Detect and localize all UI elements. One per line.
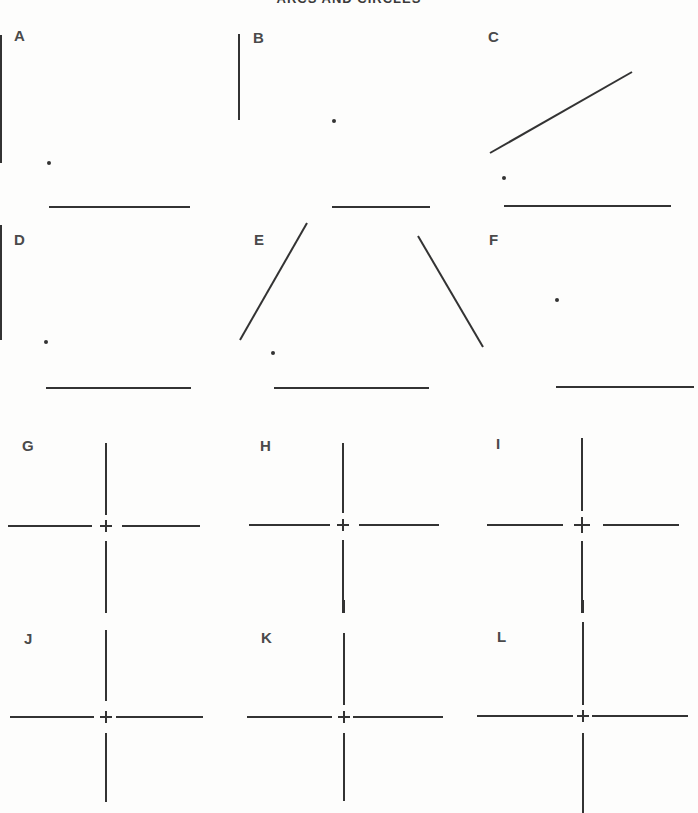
center-point [271,351,275,355]
panel-b-arc-construction [239,34,430,207]
guide-line [490,72,632,153]
panel-h-circle-centerlines [249,443,439,613]
worksheet: ARCS AND CIRCLES A B C D E F G H I J K L [0,0,698,813]
center-point [47,161,51,165]
panel-l-circle-centerlines [477,600,688,813]
panel-e-arc-construction [240,223,429,388]
panel-f-arc-construction [418,236,694,387]
panel-a-arc-construction [1,35,190,207]
panel-c-arc-construction [490,72,671,206]
center-point [555,298,559,302]
panel-g-circle-centerlines [8,443,200,613]
guide-line [418,236,483,347]
center-point [44,340,48,344]
construction-drawing [0,0,698,813]
panel-k-circle-centerlines [247,600,443,801]
center-point [502,176,506,180]
guide-line [240,223,307,340]
panel-d-arc-construction [1,225,191,388]
panel-j-circle-centerlines [10,600,203,802]
panel-i-circle-centerlines [487,438,679,613]
center-point [332,119,336,123]
